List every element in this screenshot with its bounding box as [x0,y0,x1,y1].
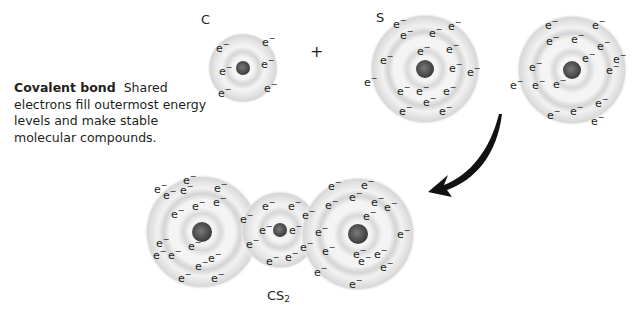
nucleus [236,61,250,75]
reaction-arrow [428,114,502,197]
carbon-label: C [201,12,210,27]
caption-title: Covalent bond [14,80,116,95]
atom-sulfur-product-right: e−e−e−e−e−e−e−e−e−e−e−e−e−e−e−e−e−e− [300,176,416,292]
atom-sulfur-reactant-1: e−e−e−e−e−e−e−e−e−e−e−e−e−e−e−e− [364,13,481,125]
product-formula: CS2 [267,288,290,304]
nucleus [416,60,434,78]
caption: Covalent bond Shared electrons fill oute… [14,80,224,146]
electron: e− [591,113,604,128]
electron: e− [262,34,275,49]
atom-sulfur-reactant-2: e−e−e−e−e−e−e−e−e−e−e−e−e−e−e−e− [510,14,628,128]
nucleus [273,223,287,237]
atoms-layer: e−e−e−e−e−e−e−e−e−e−e−e−e−e−e−e−e−e−e−e−… [144,13,628,292]
electron: e− [264,80,277,95]
sulfur-label: S [376,10,384,25]
product-formula-main: CS [267,288,284,303]
plus-sign: + [310,42,323,61]
nucleus [348,224,368,244]
product-formula-subscript: 2 [284,294,290,304]
